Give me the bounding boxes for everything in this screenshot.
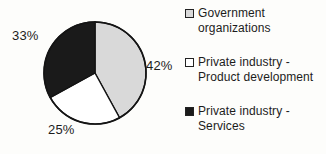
legend-label-private-industry-product-development: Private industry - Product development [198,55,313,85]
pie-data-label-25: 25% [48,122,75,137]
legend-label-line-1: Private industry - [198,55,290,69]
legend-label-line-2: organizations [198,21,271,35]
pie-chart-plot-area: 33% 42% 25% [0,0,170,154]
legend-label-line-1: Government [198,6,265,20]
pie-data-label-33: 33% [12,28,39,43]
legend-label-line-2: Services [198,119,245,133]
pie-chart-svg [0,0,170,154]
legend-item-private-industry-services: Private industry - Services [185,104,326,134]
legend-label-private-industry-services: Private industry - Services [198,104,290,134]
legend-label-line-1: Private industry - [198,104,290,118]
legend-item-government-organizations: Government organizations [185,6,326,36]
chart-legend: Government organizations Private industr… [185,6,326,134]
legend-swatch-gray-icon [185,9,194,18]
pie-data-label-42: 42% [146,58,173,73]
legend-swatch-black-icon [185,107,194,116]
legend-item-private-industry-product-development: Private industry - Product development [185,55,326,85]
legend-label-government-organizations: Government organizations [198,6,271,36]
legend-label-line-2: Product development [198,70,313,84]
legend-swatch-white-icon [185,58,194,67]
pie-chart-figure: 33% 42% 25% Government organizations Pri… [0,0,326,154]
